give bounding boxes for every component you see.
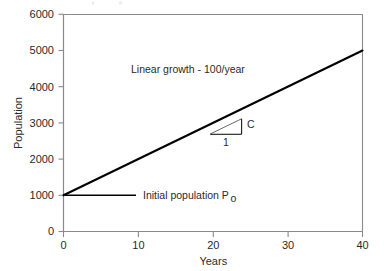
x-tick-label-20: 20 xyxy=(207,239,219,251)
growth-rate-label: Linear growth - 100/year xyxy=(131,63,245,75)
x-tick-label-10: 10 xyxy=(132,239,144,251)
x-tick-label-30: 30 xyxy=(282,239,294,251)
y-tick-label-3000: 3000 xyxy=(30,117,54,129)
x-tick-label-40: 40 xyxy=(356,239,368,251)
slope-run-label: 1 xyxy=(223,136,229,148)
population-growth-chart: 0 1000 2000 3000 4000 5000 6000 0 10 20 … xyxy=(0,0,384,271)
chart-figure: 0 1000 2000 3000 4000 5000 6000 0 10 20 … xyxy=(0,0,384,271)
x-axis-title: Years xyxy=(199,255,227,267)
slope-rise-label: C xyxy=(247,118,255,130)
y-tick-label-4000: 4000 xyxy=(30,81,54,93)
y-tick-label-5000: 5000 xyxy=(30,44,54,56)
initial-population-label-text: Initial population P xyxy=(143,189,229,201)
initial-population-subscript: o xyxy=(231,192,237,204)
y-tick-label-2000: 2000 xyxy=(30,153,54,165)
y-tick-label-1000: 1000 xyxy=(30,189,54,201)
y-tick-label-6000: 6000 xyxy=(30,8,54,20)
x-tick-label-0: 0 xyxy=(60,239,66,251)
y-axis-title: Population xyxy=(12,97,24,149)
chart-background xyxy=(0,0,384,271)
y-tick-label-0: 0 xyxy=(48,225,54,237)
